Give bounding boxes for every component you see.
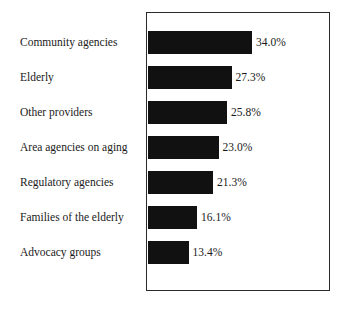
bar-value-label: 16.1% [201, 206, 231, 229]
category-label: Regulatory agencies [20, 171, 140, 194]
bar-row: Regulatory agencies21.3% [0, 171, 345, 194]
bar-value-label: 21.3% [217, 171, 247, 194]
category-label: Area agencies on aging [20, 136, 140, 159]
bar-row: Area agencies on aging23.0% [0, 136, 345, 159]
bar [148, 101, 228, 124]
bar [148, 136, 219, 159]
bar [148, 206, 198, 229]
bar-value-label: 23.0% [223, 136, 253, 159]
bar-row: Community agencies34.0% [0, 31, 345, 54]
category-label: Elderly [20, 66, 140, 89]
bar [148, 171, 214, 194]
bar-value-label: 27.3% [236, 66, 266, 89]
bar-row: Advocacy groups13.4% [0, 241, 345, 264]
bar-value-label: 34.0% [256, 31, 286, 54]
chart-screenshot: Community agencies34.0%Elderly27.3%Other… [0, 0, 345, 313]
category-label: Families of the elderly [20, 206, 140, 229]
bar [148, 66, 232, 89]
bar-value-label: 13.4% [193, 241, 223, 264]
category-label: Community agencies [20, 31, 140, 54]
bar-row: Elderly27.3% [0, 66, 345, 89]
category-label: Other providers [20, 101, 140, 124]
bar-row: Families of the elderly16.1% [0, 206, 345, 229]
category-label: Advocacy groups [20, 241, 140, 264]
bar-value-label: 25.8% [231, 101, 261, 124]
bar [148, 241, 189, 264]
bar-row: Other providers25.8% [0, 101, 345, 124]
bar [148, 31, 253, 54]
